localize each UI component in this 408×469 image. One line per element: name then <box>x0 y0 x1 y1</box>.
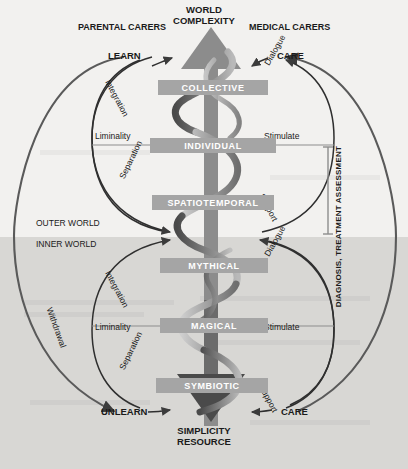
learn-label: LEARN <box>108 50 141 61</box>
care-label-bottom: CARE <box>281 406 308 417</box>
unlearn-label: UNLEARN <box>101 406 147 417</box>
outer-world-label: OUTER WORLD <box>36 218 100 228</box>
liminality-label-upper: Liminality <box>95 131 130 141</box>
world-complexity-label: WORLD COMPLEXITY <box>0 4 408 26</box>
care-label-top: CARE <box>277 50 304 61</box>
stage-bar-mythical: MYTHICAL <box>160 258 268 273</box>
liminality-label-lower: Liminality <box>95 322 130 332</box>
diagram-canvas: WORLD COMPLEXITY SIMPLICITY RESOURCE PAR… <box>0 0 408 469</box>
stage-bar-spatiotemporal: SPATIOTEMPORAL <box>152 195 274 210</box>
stage-bar-collective: COLLECTIVE <box>158 80 268 95</box>
parental-carers-heading: PARENTAL CARERS <box>78 22 166 32</box>
stage-bar-individual: INDIVIDUAL <box>150 138 276 153</box>
learn-arrow-in <box>152 58 172 66</box>
stage-bar-symbiotic: SYMBIOTIC <box>156 378 268 393</box>
simplicity-resource-label: SIMPLICITY RESOURCE <box>0 425 408 447</box>
diagnosis-bracket <box>323 147 333 234</box>
diagnosis-treatment-assessment-label: DIAGNOSIS, TREATMENT ASSESSMENT <box>333 146 347 307</box>
inner-world-label: INNER WORLD <box>36 239 96 249</box>
stage-bar-magical: MAGICAL <box>160 318 268 333</box>
stimulate-label-lower: Stimulate <box>264 322 299 332</box>
medical-carers-heading: MEDICAL CARERS <box>249 22 330 32</box>
